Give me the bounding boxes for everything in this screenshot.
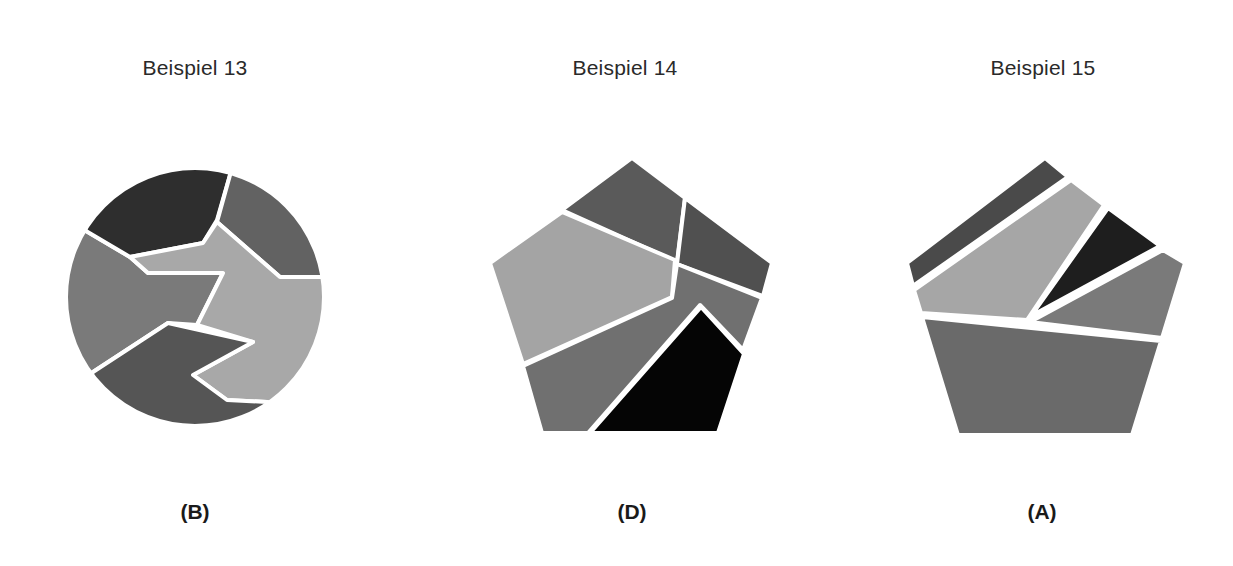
example-13-answer: (B) — [145, 500, 245, 524]
example-15-figure — [907, 158, 1185, 435]
example-13-figure — [40, 140, 345, 440]
example-14-answer: (D) — [582, 500, 682, 524]
figures-canvas — [0, 0, 1233, 566]
example-14-figure — [490, 158, 772, 433]
example-15-answer: (A) — [992, 500, 1092, 524]
